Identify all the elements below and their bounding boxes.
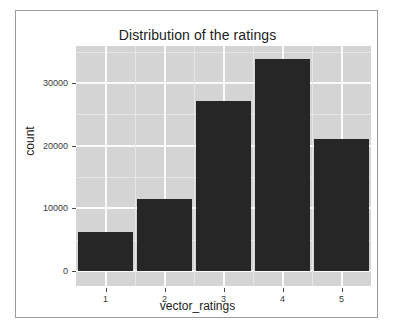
- x-tick-mark: [342, 288, 343, 292]
- x-tick-mark: [165, 288, 166, 292]
- y-tick-label: 0: [63, 266, 68, 276]
- plot-panel: [76, 46, 371, 286]
- y-axis-title: count: [23, 101, 37, 181]
- bar-1: [78, 232, 134, 271]
- y-axis: count 0100002000030000: [16, 11, 76, 319]
- x-axis-title: vector_ratings: [16, 299, 379, 313]
- figure-frame: Distribution of the ratings count 010000…: [15, 10, 378, 318]
- x-tick-mark: [224, 288, 225, 292]
- x-tick-mark: [106, 288, 107, 292]
- bar-2: [137, 199, 193, 271]
- y-tick-label: 20000: [43, 141, 68, 151]
- x-tick-mark: [283, 288, 284, 292]
- y-tick-label: 10000: [43, 203, 68, 213]
- bar-5: [314, 139, 370, 271]
- bar-4: [255, 59, 311, 271]
- y-tick-label: 30000: [43, 78, 68, 88]
- bar-3: [196, 101, 252, 271]
